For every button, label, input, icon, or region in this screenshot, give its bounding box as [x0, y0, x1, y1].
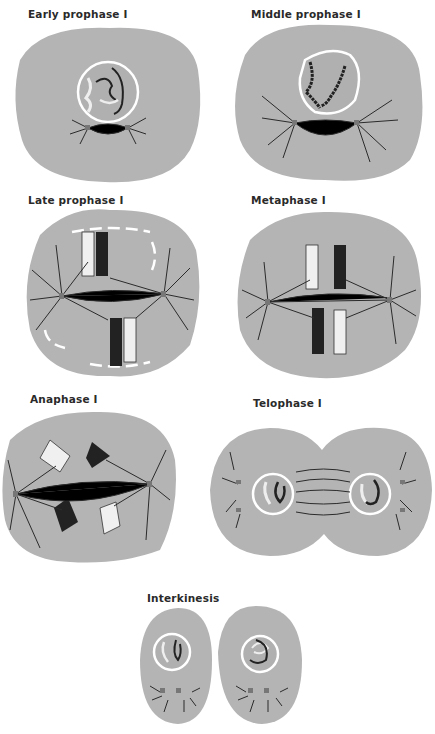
interkinesis-cells: [0, 0, 435, 734]
